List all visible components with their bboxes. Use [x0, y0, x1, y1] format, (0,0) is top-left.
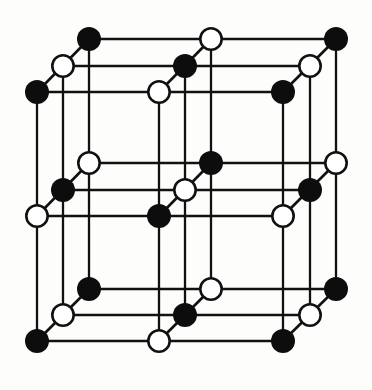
atom-filled — [271, 80, 295, 104]
atom-open — [148, 81, 169, 102]
atom-open — [200, 28, 221, 49]
atom-filled — [51, 178, 75, 202]
atom-filled — [199, 151, 223, 175]
atom-filled — [173, 54, 197, 78]
atom-filled — [77, 27, 101, 51]
atom-open — [52, 304, 73, 325]
atom-open — [174, 179, 195, 200]
atom-open — [299, 55, 320, 76]
crystal-lattice-figure — [0, 0, 372, 390]
lattice-diagram — [0, 0, 372, 390]
atom-open — [200, 278, 221, 299]
atom-open — [325, 152, 346, 173]
atom-filled — [298, 178, 322, 202]
atom-filled — [271, 329, 295, 353]
atom-open — [52, 55, 73, 76]
atom-filled — [147, 204, 171, 228]
atom-open — [26, 205, 47, 226]
atom-filled — [25, 80, 49, 104]
atom-filled — [324, 27, 348, 51]
atom-filled — [173, 303, 197, 327]
atom-filled — [25, 329, 49, 353]
atom-open — [272, 205, 293, 226]
atom-filled — [77, 277, 101, 301]
atom-open — [78, 152, 99, 173]
atom-open — [299, 304, 320, 325]
atom-filled — [324, 277, 348, 301]
atom-open — [148, 330, 169, 351]
